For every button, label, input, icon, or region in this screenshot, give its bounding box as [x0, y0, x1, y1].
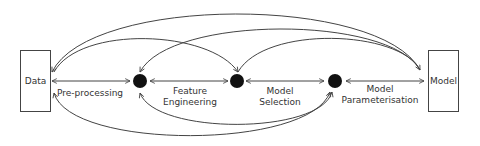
label-line: Feature — [155, 86, 225, 97]
arc-n1-model — [140, 29, 420, 72]
label-line: Engineering — [155, 97, 225, 108]
edge-label-feature-engineering: Feature Engineering — [155, 86, 225, 108]
node-dot-2 — [230, 74, 244, 88]
model-box: Model — [428, 50, 459, 112]
edge-label-preprocessing: Pre-processing — [57, 88, 123, 99]
arc-n2-model — [238, 38, 420, 72]
edge-label-model-parameterisation: Model Parameterisation — [340, 84, 420, 106]
edge-label-model-selection: Model Selection — [250, 86, 310, 108]
data-box: Data — [20, 50, 51, 112]
diagram-canvas — [0, 0, 480, 146]
label-line: Parameterisation — [340, 95, 420, 106]
node-dot-1 — [133, 74, 147, 88]
label-line: Model — [340, 84, 420, 95]
arc-data-model-outer — [52, 14, 420, 72]
model-label: Model — [430, 76, 457, 86]
label-line: Model — [250, 86, 310, 97]
label-line: Selection — [250, 97, 310, 108]
data-label: Data — [25, 76, 47, 86]
label-line: Pre-processing — [57, 88, 123, 99]
